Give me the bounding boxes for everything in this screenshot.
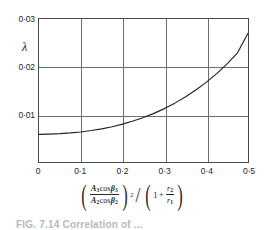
paren-open-right: ( xyxy=(146,183,152,206)
x-tick-label: 0·5 xyxy=(243,167,255,176)
y-tick-label: 0·01 xyxy=(18,111,35,120)
radius-ratio-fraction: r2 r1 xyxy=(165,184,175,205)
radius-denominator: r1 xyxy=(166,195,174,205)
y-tick-label: 0·02 xyxy=(18,63,35,72)
plus-sign: + xyxy=(158,190,166,199)
paren-close-left: ) xyxy=(122,183,128,206)
paren-close-right: ) xyxy=(177,183,183,206)
figure-container: 0·03 0·02 0·01 λ 0 0·1 0·2 0·3 0·4 0·5 (… xyxy=(0,0,264,230)
x-tick-label: 0·1 xyxy=(74,167,86,176)
y-axis-label: λ xyxy=(22,40,27,55)
radius-numerator: r2 xyxy=(166,184,174,195)
exponent-two: 2 xyxy=(130,192,134,198)
x-tick-label: 0·4 xyxy=(201,167,213,176)
ratio-fraction: A3cosβ3 A2cosβ2 xyxy=(89,184,120,205)
plot-area xyxy=(38,18,249,163)
division-slash: / xyxy=(134,186,142,204)
paren-open-left: ( xyxy=(81,183,87,206)
x-tick-label: 0 xyxy=(36,167,41,176)
fraction-numerator: A3cosβ3 xyxy=(90,184,119,195)
figure-caption: FIG. 7.14 Correlation of ... xyxy=(16,219,248,230)
x-tick-label: 0·2 xyxy=(116,167,128,176)
y-tick-label: 0·03 xyxy=(18,15,35,24)
fraction-denominator: A2cosβ2 xyxy=(90,195,119,205)
x-axis-label: ( A3cosβ3 A2cosβ2 ) 2 / ( 1 + r2 r1 ) xyxy=(0,183,264,206)
x-tick-label: 0·3 xyxy=(159,167,171,176)
data-curve xyxy=(39,19,248,162)
